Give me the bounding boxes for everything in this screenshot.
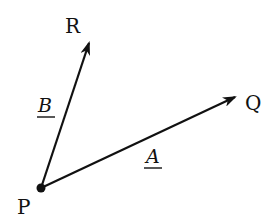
point-label-p: P (17, 195, 30, 219)
vector-a-arrow (41, 97, 235, 188)
point-label-r: R (65, 14, 81, 38)
point-p-dot (37, 184, 46, 193)
point-label-q: Q (245, 91, 261, 115)
vector-label-a: A (144, 145, 160, 167)
vector-diagram: R Q P B A (0, 0, 274, 224)
vector-label-b: B (37, 94, 52, 116)
